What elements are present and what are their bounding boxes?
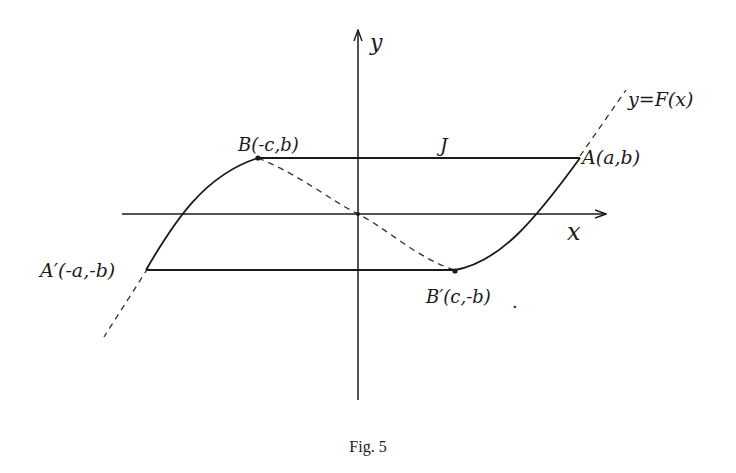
segment-J-label: J — [436, 134, 449, 156]
point-B-label: B(-c,b) — [237, 134, 299, 155]
figure-caption: Fig. 5 — [349, 438, 386, 456]
point-B-prime — [452, 268, 457, 273]
point-A-prime-label: A′(-a,-b) — [38, 259, 115, 281]
point-B — [255, 155, 260, 160]
origin-point — [356, 212, 360, 216]
trailing-period: . — [512, 291, 518, 312]
y-axis-label: y — [369, 30, 383, 55]
curve-label: y=F(x) — [627, 88, 693, 110]
figure-canvas: y x y=F(x) J A(a,b) B(-c,b) A′(-a,-b) B′… — [0, 0, 736, 473]
x-axis-label: x — [567, 218, 581, 246]
point-B-prime-label: B′(c,-b) — [425, 286, 491, 307]
point-A-label: A(a,b) — [580, 146, 640, 168]
